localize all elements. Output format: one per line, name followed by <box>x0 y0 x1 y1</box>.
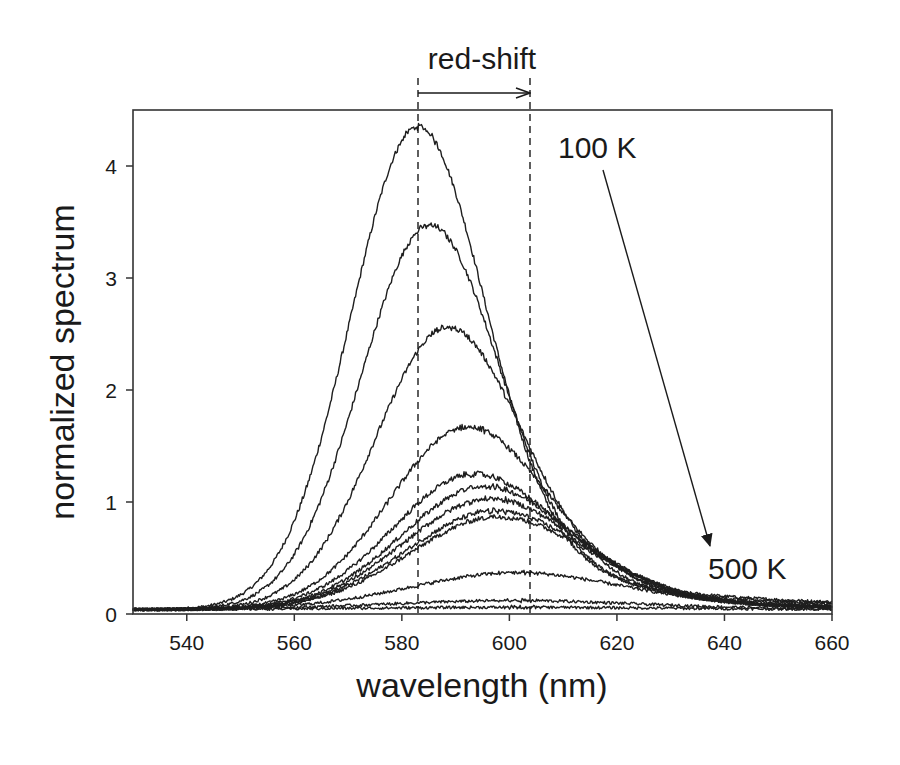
y-tick-label: 3 <box>105 267 117 290</box>
temp-start-label: 100 K <box>558 131 636 164</box>
x-tick-label: 560 <box>277 631 312 654</box>
x-tick-label: 640 <box>707 631 742 654</box>
temperature-trend-arrow-icon <box>603 170 710 546</box>
spectrum-curve-5 <box>133 471 832 611</box>
spectrum-curves <box>133 124 832 611</box>
y-axis-ticks: 01234 <box>105 155 133 626</box>
y-tick-label: 0 <box>105 603 117 626</box>
x-axis-title: wavelength (nm) <box>355 666 607 704</box>
spectrum-curve-1 <box>133 124 832 611</box>
x-tick-label: 540 <box>169 631 204 654</box>
plot-frame <box>133 110 832 614</box>
x-tick-label: 660 <box>814 631 849 654</box>
y-axis-title: normalized spectrum <box>43 204 81 520</box>
temp-end-label: 500 K <box>708 552 786 585</box>
x-axis-ticks: 540560580600620640660 <box>169 614 849 654</box>
y-tick-label: 4 <box>105 155 117 178</box>
y-tick-label: 1 <box>105 491 117 514</box>
spectrum-chart: 540560580600620640660 01234 red-shift 10… <box>0 0 900 765</box>
spectrum-curve-6 <box>133 484 832 611</box>
x-tick-label: 600 <box>492 631 527 654</box>
redshift-label: red-shift <box>428 42 537 75</box>
x-tick-label: 620 <box>599 631 634 654</box>
x-tick-label: 580 <box>384 631 419 654</box>
y-tick-label: 2 <box>105 379 117 402</box>
